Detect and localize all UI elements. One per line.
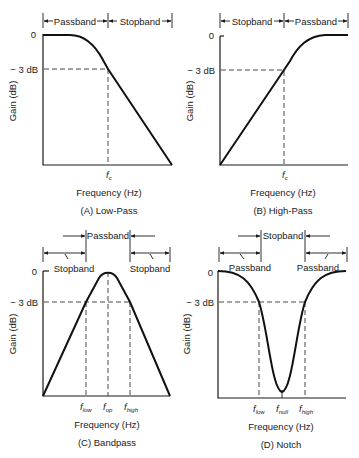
y-axis-label: Gain (dB) (184, 81, 195, 122)
band-label: Stopband (130, 263, 171, 274)
y-tick-0db: 0 (208, 267, 213, 278)
axes (43, 271, 170, 396)
band-label: Passband (229, 262, 271, 273)
panel-notch: Stopband Passband Passband 0 − 3 dB Gain… (181, 230, 347, 450)
band-label: Passband (87, 230, 129, 241)
y-tick-3db: − 3 dB (186, 297, 214, 308)
panel-caption: (C) Bandpass (78, 437, 136, 448)
response-curve (218, 271, 346, 392)
panel-caption: (D) Notch (261, 439, 302, 450)
y-axis-label: Gain (dB) (181, 314, 192, 355)
response-curve (43, 35, 172, 165)
band-label: Passband (54, 16, 96, 27)
x-marker-fc: fc (106, 169, 112, 181)
y-tick-3db: − 3 dB (10, 297, 38, 308)
y-axis-label: Gain (dB) (7, 81, 18, 122)
panel-low-pass: Passband Stopband 0 − 3 dB Gain (dB) fc … (7, 13, 172, 216)
y-tick-3db: − 3 dB (10, 64, 38, 75)
response-curve (43, 273, 170, 396)
cutoff-guide (44, 69, 108, 165)
band-label: Stopband (263, 230, 304, 241)
band-label: Passband (295, 16, 337, 27)
x-marker-fhigh: fhigh (124, 401, 139, 413)
leader-line (65, 254, 68, 259)
axes (43, 34, 172, 165)
panel-caption: (A) Low-Pass (80, 205, 137, 216)
y-tick-0db: 0 (32, 266, 37, 277)
x-marker-flow: flow (80, 401, 92, 413)
x-axis-label: Frequency (Hz) (74, 419, 139, 430)
panel-caption: (B) High-Pass (253, 205, 312, 216)
x-axis-label: Frequency (Hz) (250, 187, 315, 198)
y-axis-label: Gain (dB) (7, 314, 18, 355)
band-label: Stopband (232, 16, 273, 27)
x-marker-fnull: fnull (276, 403, 289, 415)
band-label: Stopband (120, 16, 161, 27)
y-tick-0db: 0 (31, 29, 36, 40)
x-marker-fc: fc (282, 169, 288, 181)
leader-line (240, 254, 244, 259)
y-tick-0db: 0 (209, 30, 214, 41)
panel-high-pass: Stopband Passband 0 − 3 dB Gain (dB) fc … (184, 13, 348, 216)
y-tick-3db: − 3 dB (187, 65, 215, 76)
x-marker-flow: flow (253, 403, 265, 415)
leader-line (325, 254, 328, 259)
x-marker-fop: fop (103, 401, 113, 413)
axes (218, 271, 346, 398)
x-axis-label: Frequency (Hz) (248, 421, 313, 432)
band-label: Passband (297, 262, 339, 273)
leader-line (150, 254, 153, 259)
panel-bandpass: Passband Stopband Stopband 0 − 3 dB Gain… (7, 230, 170, 448)
x-marker-fhigh: fhigh (299, 403, 314, 415)
band-label: Stopband (54, 263, 95, 274)
x-axis-label: Frequency (Hz) (76, 187, 141, 198)
filter-response-figure: Passband Stopband 0 − 3 dB Gain (dB) fc … (0, 0, 359, 458)
